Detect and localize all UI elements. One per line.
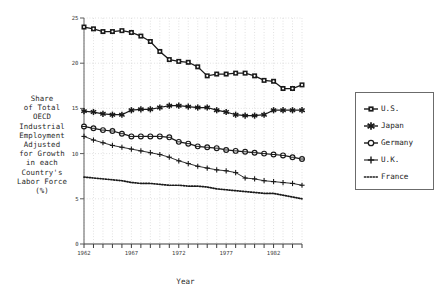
- france-marker-icon: [363, 171, 379, 183]
- legend-label-uk: U.K.: [379, 155, 399, 164]
- legend-label-japan: Japan: [379, 121, 404, 130]
- series-germany: [82, 124, 305, 161]
- germany-marker-icon: [363, 137, 379, 149]
- chart-legend: U.S. Japan Germany: [355, 92, 434, 190]
- legend-item-germany: Germany: [356, 134, 433, 151]
- data-series-layer: [81, 25, 304, 199]
- x-tick-label: 1972: [172, 250, 185, 256]
- gridlines: [84, 18, 302, 244]
- line-chart-svg: 0510152025 19621967197219771982: [66, 12, 305, 261]
- x-tick-label: 1962: [77, 250, 90, 256]
- legend-item-us: U.S.: [356, 100, 433, 117]
- uk-marker-icon: [363, 154, 379, 166]
- y-tick-labels: 0510152025: [72, 15, 79, 247]
- legend-item-france: France: [356, 168, 433, 185]
- legend-label-germany: Germany: [379, 138, 413, 147]
- y-tick-label: 5: [75, 196, 78, 202]
- x-tick-label: 1977: [219, 250, 232, 256]
- y-tick-label: 10: [72, 151, 79, 157]
- x-tick-label: 1967: [125, 250, 138, 256]
- legend-label-us: U.S.: [379, 104, 399, 113]
- x-tick-label: 1982: [267, 250, 280, 256]
- legend-label-france: France: [379, 172, 408, 181]
- series-japan: [81, 103, 304, 119]
- series-france: [84, 177, 302, 199]
- y-tick-label: 20: [72, 60, 79, 66]
- japan-marker-icon: [363, 120, 379, 132]
- plot-area: 0510152025 19621967197219771982: [66, 12, 305, 261]
- y-tick-label: 25: [72, 15, 79, 21]
- y-tick-label: 0: [75, 241, 78, 247]
- series-u-s: [82, 25, 305, 91]
- x-tick-labels: 19621967197219771982: [77, 250, 280, 256]
- legend-item-japan: Japan: [356, 117, 433, 134]
- y-tick-label: 15: [72, 105, 79, 111]
- us-marker-icon: [363, 103, 379, 115]
- chart-page: Shareof TotalOECDIndustrialEmploymentAdj…: [0, 0, 441, 298]
- x-axis-title: Year: [66, 277, 305, 286]
- axis-lines: [84, 18, 302, 244]
- legend-item-uk: U.K.: [356, 151, 433, 168]
